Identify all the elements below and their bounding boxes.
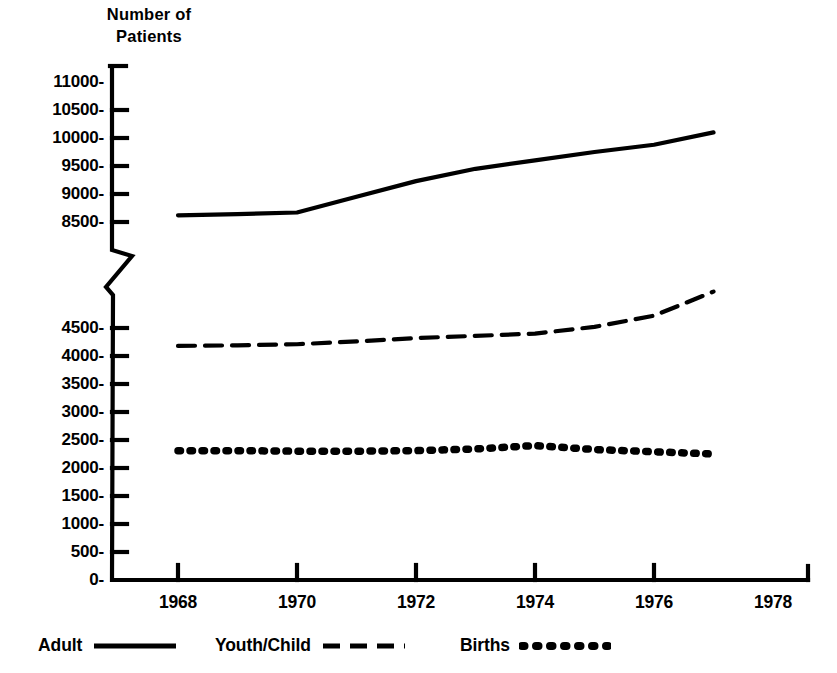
legend-label: Adult (38, 635, 82, 656)
x-axis-tick-label: 1978 (754, 592, 792, 613)
y-axis-tick-labels: 11000-10500-10000-9500-9000-8500-4500-40… (0, 0, 104, 673)
x-axis-tick-label: 1974 (516, 592, 554, 613)
line-chart: Number of Patients 11000-10500-10000-950… (0, 0, 837, 673)
y-axis-tick-label: 10000- (52, 128, 104, 148)
plot-area (0, 0, 837, 673)
axis-line-with-break (106, 66, 808, 580)
data-series-layer (178, 132, 714, 454)
legend-entry-adult[interactable]: Adult (38, 632, 179, 658)
y-axis-tick-label: 2500- (62, 430, 104, 450)
x-axis-tick-label: 1972 (397, 592, 435, 613)
y-axis-tick-label: 4500- (62, 318, 104, 338)
chart-legend: AdultYouth/ChildBirths (0, 632, 837, 672)
y-axis-tick-label: 9500- (62, 156, 104, 176)
y-axis-tick-label: 9000- (62, 184, 104, 204)
y-axis-tick-label: 3000- (62, 402, 104, 422)
legend-swatch-dashed (320, 637, 408, 653)
y-axis-tick-label: 4000- (62, 346, 104, 366)
legend-label: Youth/Child (215, 635, 311, 656)
x-axis-tick-label: 1968 (159, 592, 197, 613)
x-axis-tick-label: 1976 (635, 592, 673, 613)
x-axis-tick-label: 1970 (278, 592, 316, 613)
legend-entry-births[interactable]: Births (460, 632, 611, 658)
series-line-youth-child (178, 292, 714, 346)
y-axis-tick-label: 10500- (52, 100, 104, 120)
y-axis-tick-label: 500- (71, 542, 104, 562)
y-axis-tick-label: 3500- (62, 374, 104, 394)
legend-entry-youth-child[interactable]: Youth/Child (215, 632, 408, 658)
y-axis-tick-label: 2000- (62, 458, 104, 478)
series-line-adult (178, 132, 714, 215)
y-axis-tick-label: 1500- (62, 486, 104, 506)
y-axis-tick-label: 8500- (62, 212, 104, 232)
legend-swatch-solid (91, 637, 179, 653)
x-axis-ticks (178, 565, 654, 580)
y-axis-tick-label: 11000- (53, 72, 104, 92)
axis-lines (106, 66, 808, 580)
series-line-births (178, 446, 714, 454)
legend-swatch-dotted (519, 637, 611, 653)
legend-label: Births (460, 635, 510, 656)
y-axis-tick-label: 0- (89, 570, 104, 590)
y-axis-tick-label: 1000- (62, 514, 104, 534)
